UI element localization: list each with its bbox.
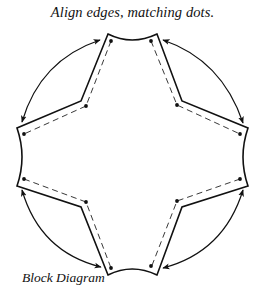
seam-lines xyxy=(24,41,240,268)
block-diagram xyxy=(0,0,265,293)
dot xyxy=(149,264,153,268)
dot xyxy=(149,39,153,43)
dot xyxy=(84,104,88,108)
dot xyxy=(109,266,113,270)
dot xyxy=(22,177,26,181)
bottom-right-arrow xyxy=(163,190,243,268)
dot xyxy=(238,132,242,136)
matching-dots xyxy=(22,39,242,270)
diagram-caption: Block Diagram xyxy=(22,270,105,286)
dot xyxy=(175,199,179,203)
dot xyxy=(238,177,242,181)
dot xyxy=(109,39,113,43)
dot xyxy=(84,200,88,204)
dot xyxy=(22,132,26,136)
dot xyxy=(175,103,179,107)
